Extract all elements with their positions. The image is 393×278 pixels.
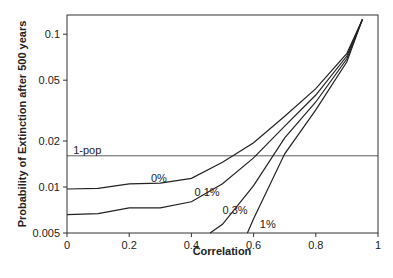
- x-tick-label: 0: [64, 239, 70, 251]
- x-tick-label: 0.2: [122, 239, 137, 251]
- x-tick-label: 1: [375, 239, 381, 251]
- annotation-label: 1%: [260, 218, 276, 230]
- series-line-0.3%: [210, 19, 362, 233]
- y-tick-label: 0.01: [39, 181, 60, 193]
- series-lines: [67, 19, 362, 233]
- annotation-label: 0%: [151, 172, 167, 184]
- series-line-0%: [67, 19, 362, 189]
- x-axis-label: Correlation: [193, 245, 252, 257]
- y-tick-label: 0.02: [39, 135, 60, 147]
- y-tick-label: 0.05: [39, 74, 60, 86]
- y-axis: 0.0050.010.020.050.1: [32, 28, 67, 239]
- plot-frame: [67, 15, 378, 233]
- series-line-1%: [247, 19, 362, 233]
- x-tick-label: 0.8: [308, 239, 323, 251]
- annotation-label: 1-pop: [73, 144, 101, 156]
- annotation-label: 0.3%: [223, 204, 248, 216]
- y-axis-label: Probability of Extinction after 500 year…: [16, 21, 28, 228]
- y-tick-label: 0.1: [45, 28, 60, 40]
- annotation-label: 0.1%: [195, 186, 220, 198]
- chart: 0.0050.010.020.050.1 00.20.40.60.81 1-po…: [0, 0, 393, 278]
- y-tick-label: 0.005: [32, 227, 60, 239]
- annotations: 1-pop0%0.1%0.3%1%: [73, 144, 276, 230]
